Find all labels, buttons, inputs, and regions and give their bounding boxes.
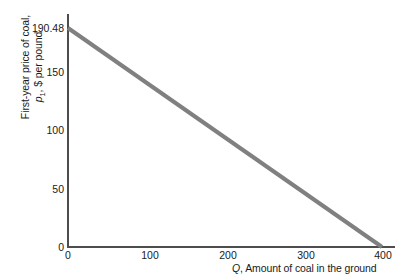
price-path-line xyxy=(68,28,382,247)
chart-container: First-year price of coal, p1, $ per poun… xyxy=(0,0,404,280)
plot-area xyxy=(0,0,404,280)
